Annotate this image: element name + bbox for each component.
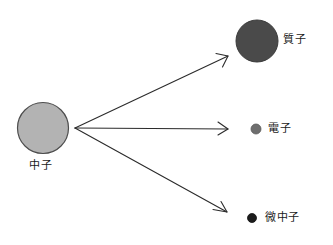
neutrino-label: 微中子 bbox=[265, 211, 300, 224]
arrow-group bbox=[75, 54, 228, 213]
arrow-to-neutrino bbox=[75, 128, 227, 212]
neutrino-circle-icon bbox=[248, 214, 257, 223]
electron-circle-icon bbox=[251, 124, 261, 134]
neutron-circle-icon bbox=[18, 103, 69, 154]
arrow-to-proton bbox=[75, 54, 228, 129]
electron-label: 電子 bbox=[268, 122, 291, 135]
arrow-to-neutrino-shaft bbox=[75, 128, 227, 212]
arrow-to-electron bbox=[75, 122, 228, 135]
arrow-to-proton-shaft bbox=[75, 56, 228, 128]
proton-circle-icon bbox=[236, 20, 278, 62]
arrow-to-electron-shaft bbox=[75, 128, 228, 129]
neutron-label: 中子 bbox=[29, 159, 52, 172]
decay-diagram: 中子 質子 電子 微中子 bbox=[0, 0, 333, 245]
proton-label: 質子 bbox=[283, 33, 306, 46]
